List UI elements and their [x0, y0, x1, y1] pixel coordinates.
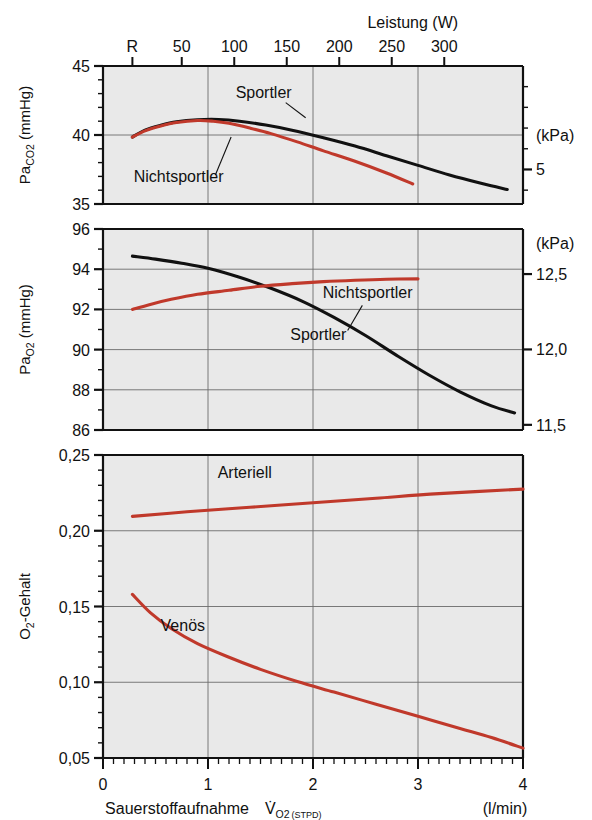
top-tick-label: 50 [173, 38, 191, 55]
x-axis-unit-label: (l/min) [483, 800, 527, 817]
y-tick-label-left: 94 [72, 261, 90, 278]
top-tick-label: 300 [431, 38, 458, 55]
x-tick-label: 1 [204, 776, 213, 793]
y-tick-label-left: 90 [72, 342, 90, 359]
x-axis-label: Sauerstoffaufnahme V̇O2 (STPD) [105, 800, 321, 820]
y-tick-label-left: 0,05 [59, 750, 90, 767]
y-tick-label-left: 86 [72, 422, 90, 439]
y-axis-label-paco2: PaCO2 (mmHg) [16, 86, 36, 184]
panel-paco2: 354045PaCO2 (mmHg)5(kPa)SportlerNichtspo… [16, 58, 574, 213]
y-tick-label-left: 88 [72, 382, 90, 399]
y-axis-label-text: PaCO2 (mmHg) [16, 86, 36, 184]
y-tick-label-left: 35 [72, 196, 90, 213]
top-tick-label: 250 [378, 38, 405, 55]
curve-label-sportler: Sportler [236, 84, 293, 101]
curve-label-arteriell: Arteriell [218, 464, 272, 481]
top-tick-label: 150 [273, 38, 300, 55]
curve-label-nichtsportler: Nichtsportler [134, 168, 224, 185]
bottom-axis-x: 01234Sauerstoffaufnahme V̇O2 (STPD)(l/mi… [99, 758, 528, 820]
y-tick-label-right: 12,0 [536, 341, 567, 358]
figure-root: 354045PaCO2 (mmHg)5(kPa)SportlerNichtspo… [0, 0, 592, 820]
panel-pao2: 868890929496PaO2 (mmHg)11,512,012,5(kPa)… [16, 221, 574, 439]
right-axis-paco2: 5(kPa) [523, 87, 574, 191]
x-tick-label: 4 [519, 776, 528, 793]
curve-label-vens: Venös [161, 617, 205, 634]
top-axis-leistung: R50100150200250300Leistung (W) [127, 14, 458, 66]
y-tick-label-right: 5 [536, 161, 545, 178]
x-tick-label: 0 [99, 776, 108, 793]
y-axis-label-text: PaO2 (mmHg) [16, 284, 36, 375]
top-tick-label: 100 [221, 38, 248, 55]
y-tick-label-left: 45 [72, 58, 90, 75]
top-tick-label: R [127, 38, 139, 55]
y-tick-label-right: 11,5 [536, 417, 566, 434]
y-tick-label-left: 92 [72, 301, 90, 318]
right-axis-unit-label: (kPa) [536, 127, 574, 144]
y-tick-label-left: 0,25 [59, 447, 90, 464]
y-tick-label-left: 0,10 [59, 674, 90, 691]
y-tick-label-left: 40 [72, 127, 90, 144]
x-tick-label: 2 [309, 776, 318, 793]
right-axis-pao2: 11,512,012,5(kPa) [523, 235, 574, 434]
panel-o2content: 0,050,100,150,200,25O2-GehaltArteriellVe… [16, 447, 523, 767]
curve-label-sportler: Sportler [290, 326, 347, 343]
x-tick-label: 3 [414, 776, 423, 793]
y-axis-label-pao2: PaO2 (mmHg) [16, 284, 36, 375]
y-tick-label-left: 96 [72, 221, 90, 238]
y-axis-label-text: O2-Gehalt [16, 572, 36, 640]
y-tick-label-left: 0,15 [59, 599, 90, 616]
y-axis-label-o2content: O2-Gehalt [16, 572, 36, 640]
top-axis-title: Leistung (W) [367, 14, 458, 31]
y-tick-label-right: 12,5 [536, 266, 567, 283]
top-tick-label: 200 [326, 38, 353, 55]
curve-label-nichtsportler: Nichtsportler [323, 284, 413, 301]
y-ticks-left: 0,050,100,150,200,25 [59, 447, 103, 767]
y-tick-label-left: 0,20 [59, 523, 90, 540]
right-axis-unit-label: (kPa) [536, 235, 574, 252]
